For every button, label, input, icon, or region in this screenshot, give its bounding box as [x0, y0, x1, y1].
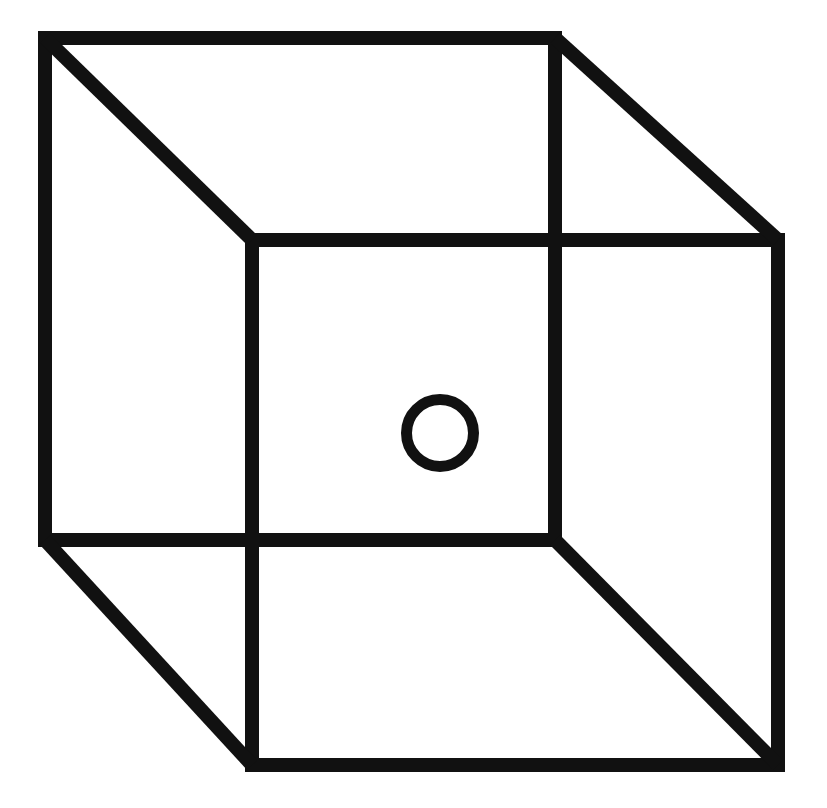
necker-cube-figure: Necker cube wireframe with small circle …	[0, 0, 827, 808]
